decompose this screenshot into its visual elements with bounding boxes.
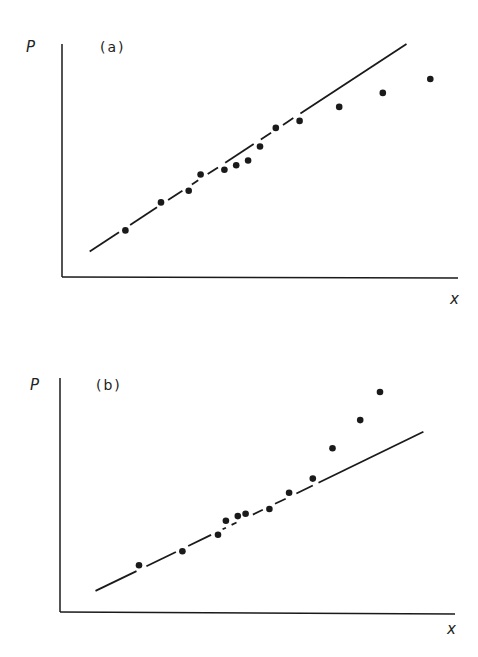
data-point xyxy=(286,489,293,496)
fit-line-segment xyxy=(319,432,424,483)
panel-a-fit-line xyxy=(90,44,407,251)
data-point xyxy=(257,143,264,150)
data-point xyxy=(242,510,249,517)
data-point xyxy=(136,562,143,569)
fit-line-segment xyxy=(192,180,198,184)
data-point xyxy=(185,188,192,195)
data-point xyxy=(296,118,303,125)
data-point xyxy=(158,199,165,206)
panel-a-axes xyxy=(62,44,458,278)
data-point xyxy=(273,125,280,132)
data-point xyxy=(427,76,434,83)
panel-a-x-axis xyxy=(62,277,458,278)
data-point xyxy=(336,104,343,111)
fit-line-segment xyxy=(283,118,293,125)
data-point xyxy=(357,417,364,424)
panel-b-label: (b) xyxy=(96,377,122,393)
data-point xyxy=(377,389,384,396)
fit-line-segment xyxy=(300,44,406,114)
data-point xyxy=(380,90,387,97)
data-point xyxy=(235,513,242,520)
fit-line-segment xyxy=(223,528,226,530)
panel-a-label: (a) xyxy=(100,39,126,55)
panel-b-points xyxy=(136,389,384,569)
fit-line-segment xyxy=(232,523,237,525)
panel-b: P (b) x xyxy=(30,376,456,638)
panel-b-ylabel: P xyxy=(30,376,40,394)
fit-line-segment xyxy=(130,207,157,225)
figure: P (a) x P (b) x xyxy=(0,0,478,657)
data-point xyxy=(233,162,240,169)
data-point xyxy=(179,548,186,555)
data-point xyxy=(310,475,317,482)
fit-line-segment xyxy=(296,486,312,494)
data-point xyxy=(221,167,228,174)
fit-line-segment xyxy=(96,571,137,591)
fit-line-segment xyxy=(253,510,263,515)
panel-b-xlabel: x xyxy=(446,620,456,638)
fit-line-segment xyxy=(208,167,218,174)
data-point xyxy=(329,445,336,452)
data-point xyxy=(215,532,222,539)
fit-line-segment xyxy=(188,535,211,546)
fit-line-segment xyxy=(90,232,119,251)
data-point xyxy=(223,517,230,524)
data-point xyxy=(266,506,273,513)
panel-b-fit-line xyxy=(96,432,424,591)
fit-line-segment xyxy=(168,191,182,200)
panel-a-xlabel: x xyxy=(449,290,459,308)
data-point xyxy=(197,171,204,178)
fit-line-segment xyxy=(146,552,176,566)
panel-a: P (a) x xyxy=(26,38,459,308)
panel-b-x-axis xyxy=(60,612,455,614)
data-point xyxy=(245,157,252,164)
fit-line-segment xyxy=(261,133,271,140)
data-point xyxy=(122,227,129,234)
panel-a-points xyxy=(122,76,434,234)
fit-line-segment xyxy=(275,499,286,504)
panel-a-ylabel: P xyxy=(26,38,36,56)
